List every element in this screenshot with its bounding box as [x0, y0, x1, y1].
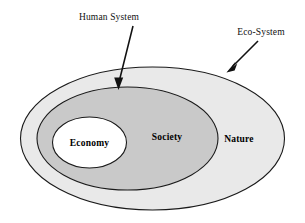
callout-arrow-eco-system	[227, 41, 259, 73]
callout-label-eco-system: Eco-System	[237, 27, 285, 37]
region-label-economy: Economy	[70, 138, 109, 148]
diagram-canvas: Economy Society Nature Human System Eco-…	[0, 0, 305, 223]
region-label-nature: Nature	[224, 134, 254, 144]
nested-systems-diagram: Economy Society Nature Human System Eco-…	[0, 0, 305, 223]
callout-label-human-system: Human System	[79, 12, 140, 22]
region-label-society: Society	[152, 132, 182, 142]
